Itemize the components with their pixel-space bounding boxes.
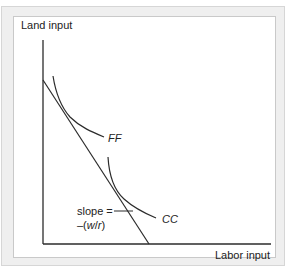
x-axis-label: Labor input xyxy=(215,249,270,261)
cc-curve xyxy=(108,157,156,218)
cc-label: CC xyxy=(162,213,178,225)
slope-label-line2: –(w/r) xyxy=(77,219,105,231)
diagram-canvas xyxy=(0,0,291,279)
ff-label: FF xyxy=(108,132,121,144)
slope-label-line1: slope = xyxy=(77,205,113,217)
y-axis-label: Land input xyxy=(21,19,72,31)
